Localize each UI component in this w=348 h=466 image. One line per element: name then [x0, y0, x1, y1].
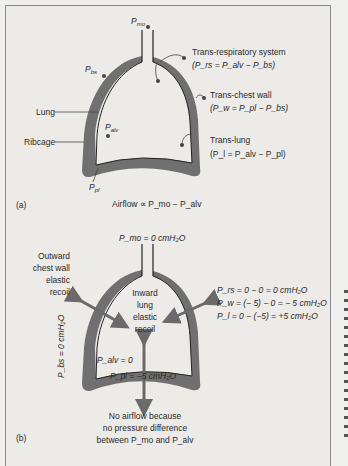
panel-b-label: (b) — [16, 433, 27, 443]
outward-recoil-line4: recoil — [50, 287, 70, 297]
ppl-label-a: Ppl — [89, 182, 100, 193]
trans-respiratory-eq: (P_rs = P_alv − P_bs) — [192, 60, 275, 70]
inward-recoil-line2: lung — [137, 300, 153, 310]
palv-label-a: Palv — [105, 122, 119, 133]
panel-a: Pmo Pbs Palv Ppl Lung Ribcage Trans-resp… — [16, 16, 288, 210]
panel-b: P_mo = 0 cmH₂O Outward chest wall elasti… — [16, 233, 327, 445]
no-airflow-line3: between P_mo and P_alv — [97, 435, 195, 445]
palv-label-b: P_alv = 0 — [97, 355, 133, 365]
inward-recoil-line1: Inward — [132, 288, 158, 298]
inward-recoil-line3: elastic — [133, 312, 158, 322]
pbs-label-b: P_bs = 0 cmH₂O — [56, 314, 66, 378]
ppl-label-b: P_pl = −5 cmH₂O — [110, 371, 176, 381]
pbs-label-a: Pbs — [85, 64, 97, 75]
inward-recoil-line4: recoil — [135, 324, 155, 334]
trans-lung-eq: (P_l = P_alv − P_pl) — [210, 149, 286, 159]
trans-lung-title: Trans-lung — [210, 135, 251, 145]
pmo-label-b: P_mo = 0 cmH₂O — [119, 233, 186, 243]
trans-chest-wall-title: Trans-chest wall — [210, 90, 272, 100]
airflow-equation: Airflow ∝ P_mo − P_alv — [112, 199, 202, 209]
trans-chest-wall-eq: (P_w = P_pl − P_bs) — [210, 103, 288, 113]
panel-a-label: (a) — [16, 200, 27, 210]
ribcage-label: Ribcage — [24, 137, 55, 147]
pmo-label-a: Pmo — [131, 16, 146, 27]
prs-equation: P_rs = 0 − 0 = 0 cmH₂O — [217, 285, 308, 295]
outward-recoil-line2: chest wall — [33, 263, 70, 273]
no-airflow-line1: No airflow because — [109, 411, 182, 421]
trans-respiratory-title: Trans-respiratory system — [192, 47, 286, 57]
pl-equation: P_l = 0 − (−5) = +5 cmH₂O — [217, 311, 318, 321]
outward-recoil-line1: Outward — [38, 251, 70, 261]
pw-equation: P_w = (− 5) − 0 = − 5 cmH₂O — [217, 298, 327, 308]
outward-recoil-line3: elastic — [46, 275, 71, 285]
lung-label: Lung — [36, 107, 55, 117]
no-airflow-line2: no pressure difference — [103, 423, 188, 433]
